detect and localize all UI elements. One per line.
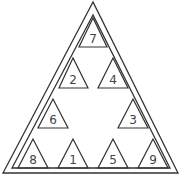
number-row2-right: 4: [103, 73, 123, 87]
number-bottom-1: 8: [23, 153, 43, 167]
number-bottom-3: 5: [103, 153, 123, 167]
number-row2-left: 2: [63, 73, 83, 87]
number-row3-right: 3: [123, 113, 143, 127]
number-row3-left: 6: [43, 113, 63, 127]
number-top: 7: [83, 32, 103, 46]
number-bottom-4: 9: [143, 153, 163, 167]
triangle-frame: [0, 0, 181, 177]
number-bottom-2: 1: [63, 153, 83, 167]
